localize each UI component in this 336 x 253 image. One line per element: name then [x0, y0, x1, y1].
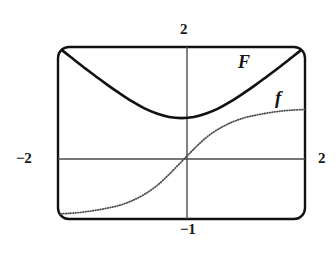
plot-canvas	[0, 0, 336, 253]
plot-frame	[58, 47, 305, 219]
graph-figure: 2 −2 2 −1 F f	[0, 0, 336, 253]
axis-label-left: −2	[16, 151, 32, 166]
curve-label-f: f	[275, 88, 281, 107]
axis-label-top: 2	[180, 22, 187, 37]
axis-label-right: 2	[318, 151, 325, 166]
axis-label-bottom: −1	[180, 222, 196, 237]
curve-label-F: F	[238, 53, 250, 71]
